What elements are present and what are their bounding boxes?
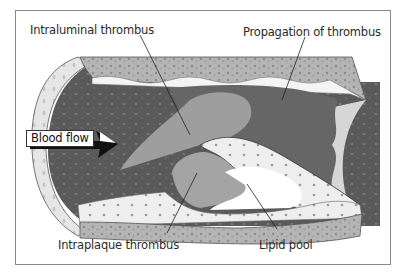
label-lipid-pool: Lipid pool <box>259 238 313 252</box>
label-intraplaque-thrombus: Intraplaque thrombus <box>58 238 179 252</box>
label-blood-flow: Blood flow <box>26 130 94 147</box>
diagram-canvas: Intraluminal thrombus Propagation of thr… <box>0 0 408 280</box>
label-intraluminal-thrombus: Intraluminal thrombus <box>30 23 154 37</box>
label-propagation-of-thrombus: Propagation of thrombus <box>243 25 381 39</box>
